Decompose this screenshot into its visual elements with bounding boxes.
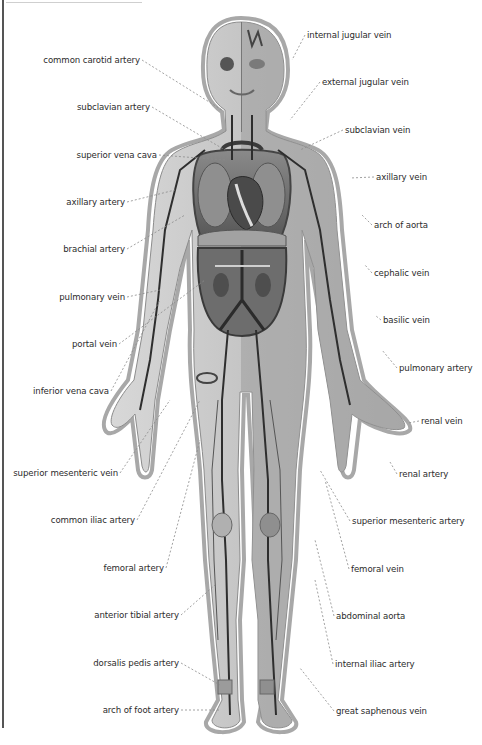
label-abdominal-aorta: abdominal aorta	[336, 611, 405, 622]
label-common-iliac-artery: common iliac artery	[51, 515, 135, 526]
abdomen	[198, 230, 287, 336]
label-femoral-artery: femoral artery	[103, 563, 164, 574]
label-basilic-vein: basilic vein	[383, 315, 430, 326]
thorax	[193, 143, 290, 236]
label-portal-vein: portal vein	[72, 339, 117, 350]
label-pulmonary-vein: pulmonary vein	[59, 292, 125, 303]
label-pulmonary-artery: pulmonary artery	[399, 363, 472, 374]
label-common-carotid-artery: common carotid artery	[43, 55, 140, 66]
label-anterior-tibial-artery: anterior tibial artery	[94, 610, 179, 621]
label-inferior-vena-cava: inferior vena cava	[33, 386, 109, 397]
label-cephalic-vein: cephalic vein	[374, 268, 429, 279]
label-femoral-vein: femoral vein	[351, 564, 404, 575]
label-superior-mesenteric-vein: superior mesenteric vein	[13, 468, 118, 479]
label-internal-iliac-artery: internal iliac artery	[335, 659, 415, 670]
label-external-jugular-vein: external jugular vein	[322, 77, 409, 88]
label-internal-jugular-vein: internal jugular vein	[307, 30, 391, 41]
label-arch-of-aorta: arch of aorta	[374, 220, 428, 231]
label-subclavian-vein: subclavian vein	[345, 125, 410, 136]
label-great-saphenous-vein: great saphenous vein	[336, 706, 427, 717]
label-renal-vein: renal vein	[421, 416, 463, 427]
label-superior-vena-cava: superior vena cava	[77, 150, 157, 161]
label-subclavian-artery: subclavian artery	[77, 102, 150, 113]
label-axillary-vein: axillary vein	[376, 172, 427, 183]
label-renal-artery: renal artery	[399, 469, 448, 480]
label-arch-of-foot-artery: arch of foot artery	[103, 705, 179, 716]
label-superior-mesenteric-artery: superior mesenteric artery	[352, 516, 465, 527]
label-axillary-artery: axillary artery	[66, 197, 125, 208]
label-brachial-artery: brachial artery	[63, 244, 125, 255]
label-dorsalis-pedis-artery: dorsalis pedis artery	[93, 658, 179, 669]
